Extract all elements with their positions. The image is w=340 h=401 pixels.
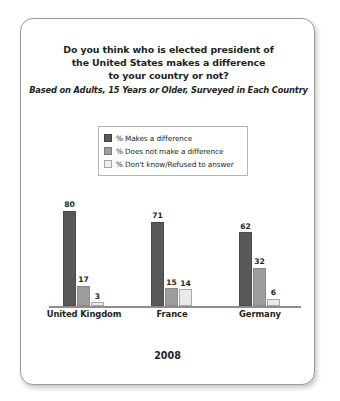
x-axis-line	[49, 306, 301, 308]
bar-rect-germany-series-1	[239, 232, 252, 306]
chart-screenshot: Do you think who is elected president of…	[0, 0, 340, 401]
bar-value-france-series-1: 71	[144, 211, 171, 220]
legend-item-does-not-make-a-difference: % Does not make a difference	[104, 145, 242, 157]
bar-value-uk-series-3: 3	[84, 292, 111, 301]
bar-value-uk-series-2: 17	[70, 275, 97, 284]
legend-swatch-icon-series-2	[104, 147, 112, 155]
bar-value-uk-series-1: 80	[56, 200, 83, 209]
legend-swatch-icon-series-1	[104, 134, 112, 142]
bar-rect-germany-series-3	[267, 299, 280, 306]
chart-title-line-2: the United States makes a difference	[29, 56, 308, 69]
chart-title-line-1: Do you think who is elected president of	[29, 43, 308, 56]
bar-rect-france-series-2	[165, 288, 178, 306]
bar-rect-germany-series-2	[253, 268, 266, 306]
chart-title-line-3: to your country or not?	[29, 69, 308, 82]
bar-value-germany-series-3: 6	[260, 288, 287, 297]
bar-rect-france-series-3	[179, 289, 192, 306]
legend-label-series-3: % Don't know/Refused to answer	[116, 160, 234, 169]
chart-year-label: 2008	[21, 350, 314, 361]
category-label-germany: Germany	[205, 309, 315, 319]
bar-value-germany-series-1: 62	[232, 222, 259, 231]
chart-legend: % Makes a difference % Does not make a d…	[98, 126, 248, 176]
bar-rect-france-series-1	[151, 222, 164, 307]
legend-label-series-1: % Makes a difference	[116, 134, 192, 143]
bar-rect-uk-series-1	[63, 211, 76, 306]
chart-title-block: Do you think who is elected president of…	[29, 43, 308, 97]
chart-subtitle: Based on Adults, 15 Years or Older, Surv…	[29, 84, 308, 97]
bar-value-france-series-3: 14	[172, 279, 199, 288]
legend-item-makes-a-difference: % Makes a difference	[104, 132, 242, 144]
bar-rect-uk-series-3	[91, 302, 104, 306]
legend-swatch-icon-series-3	[104, 160, 112, 168]
legend-label-series-2: % Does not make a difference	[116, 147, 223, 156]
legend-item-dont-know: % Don't know/Refused to answer	[104, 158, 242, 170]
chart-card: Do you think who is elected president of…	[20, 18, 315, 385]
chart-plot-area: 80 17 3 United Kingdom 71	[21, 179, 314, 327]
bar-value-germany-series-2: 32	[246, 257, 273, 266]
